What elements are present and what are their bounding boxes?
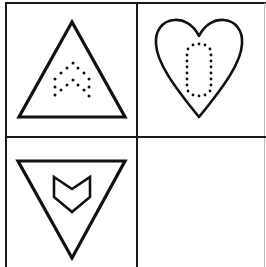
cell-bottom-left: [18, 161, 125, 258]
grid-lines: [5, 3, 266, 267]
dotted-rounded-rectangle-icon: [186, 43, 213, 98]
triangle-down-icon: [18, 161, 125, 258]
worksheet-grid: [0, 0, 266, 267]
heart-icon: [156, 20, 242, 117]
cell-top-left: [19, 22, 125, 117]
chevron-down-outline-icon: [54, 177, 90, 212]
shape-tracing-worksheet: [0, 0, 266, 267]
triangle-up-icon: [19, 22, 125, 117]
cell-top-right: [156, 20, 242, 117]
dotted-chevron-up-icon: [54, 62, 91, 98]
